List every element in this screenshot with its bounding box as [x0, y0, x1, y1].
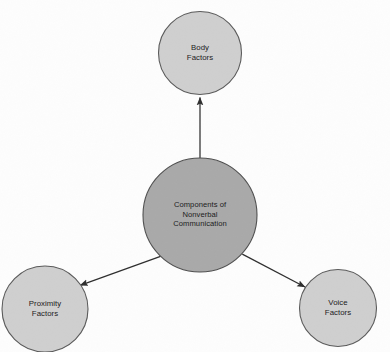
hub-to-proximity-factors-arrow: [80, 256, 160, 285]
hub-to-voice-factors-arrow: [242, 254, 305, 287]
node-body-factors: [159, 12, 242, 95]
diagram-canvas: Components of Nonverbal Communication Bo…: [0, 0, 390, 352]
node-components-of-nonverbal-communication: [143, 158, 257, 272]
node-voice-factors: [300, 270, 377, 347]
diagram-graphics: [0, 0, 390, 352]
node-proximity-factors: [2, 266, 88, 352]
